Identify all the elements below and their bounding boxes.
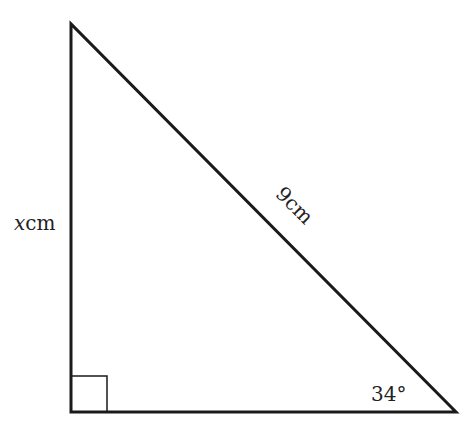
triangle-diagram: xcm 9cm 34° bbox=[0, 0, 476, 431]
right-angle-marker bbox=[71, 376, 107, 412]
angle-label: 34° bbox=[371, 382, 406, 406]
vertical-side-label: xcm bbox=[14, 211, 55, 235]
hypotenuse-label: 9cm bbox=[271, 182, 318, 229]
triangle bbox=[71, 24, 456, 412]
